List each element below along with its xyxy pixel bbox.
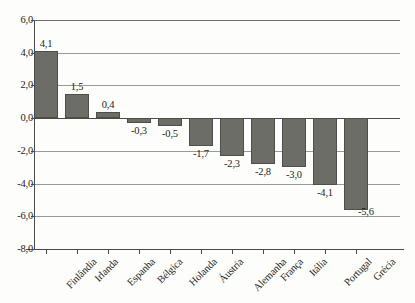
bar [282, 118, 306, 167]
bar [127, 118, 151, 123]
y-tick-label: 0,0 [3, 113, 33, 123]
bar-value-label: -3,0 [274, 169, 314, 180]
x-category-label: Áustria [217, 256, 246, 285]
y-tick-mark [31, 249, 35, 250]
y-tick-mark [31, 53, 35, 54]
gridline-6-0 [34, 20, 400, 21]
x-axis-line [26, 249, 404, 250]
bar-value-label: -5,6 [358, 206, 398, 217]
bar-value-label: 1,5 [57, 81, 97, 92]
plot-area [34, 20, 400, 249]
y-tick-mark [31, 184, 35, 185]
bar-value-label: -0,5 [150, 128, 190, 139]
x-category-label: Grécia [371, 256, 398, 283]
gridline-4-0 [34, 53, 400, 54]
bar [34, 51, 58, 118]
y-tick-label: -8,0 [3, 244, 33, 254]
x-tick-mark [77, 250, 78, 254]
y-tick-label: -2,0 [3, 146, 33, 156]
gridline--6-0 [34, 216, 400, 217]
bar [65, 94, 89, 119]
x-tick-mark [139, 250, 140, 254]
y-tick-label: 6,0 [3, 15, 33, 25]
bar [313, 118, 337, 185]
x-category-label: Portugal [342, 256, 374, 288]
x-category-label: Holanda [187, 256, 219, 288]
bar [189, 118, 213, 146]
x-tick-mark [46, 250, 47, 254]
x-tick-mark [356, 250, 357, 254]
y-tick-label: 2,0 [3, 80, 33, 90]
x-tick-mark [325, 250, 326, 254]
bar-value-label: -4,1 [305, 187, 345, 198]
x-tick-mark [232, 250, 233, 254]
x-tick-mark [263, 250, 264, 254]
x-category-label: Irlanda [92, 256, 120, 284]
x-category-label: Bélgica [155, 256, 184, 285]
x-tick-mark [170, 250, 171, 254]
bar-value-label: 0,4 [88, 99, 128, 110]
bar [158, 118, 182, 126]
y-tick-label: -6,0 [3, 211, 33, 221]
y-tick-mark [31, 216, 35, 217]
x-category-label: Espanha [125, 256, 157, 288]
bar [96, 112, 120, 119]
bar [220, 118, 244, 156]
bar [344, 118, 368, 210]
x-tick-mark [294, 250, 295, 254]
y-tick-mark [31, 151, 35, 152]
x-category-label: Itália [307, 256, 329, 278]
bar-chart: 6,04,02,00,0-2,0-4,0-6,0-8,0 4,11,50,4-0… [0, 0, 415, 303]
y-tick-mark [31, 20, 35, 21]
bar-value-label: 4,1 [26, 38, 66, 49]
bar [251, 118, 275, 164]
x-tick-mark [201, 250, 202, 254]
y-tick-label: 4,0 [3, 48, 33, 58]
y-tick-label: -4,0 [3, 179, 33, 189]
y-tick-mark [31, 118, 35, 119]
x-tick-mark [108, 250, 109, 254]
y-tick-mark [31, 85, 35, 86]
